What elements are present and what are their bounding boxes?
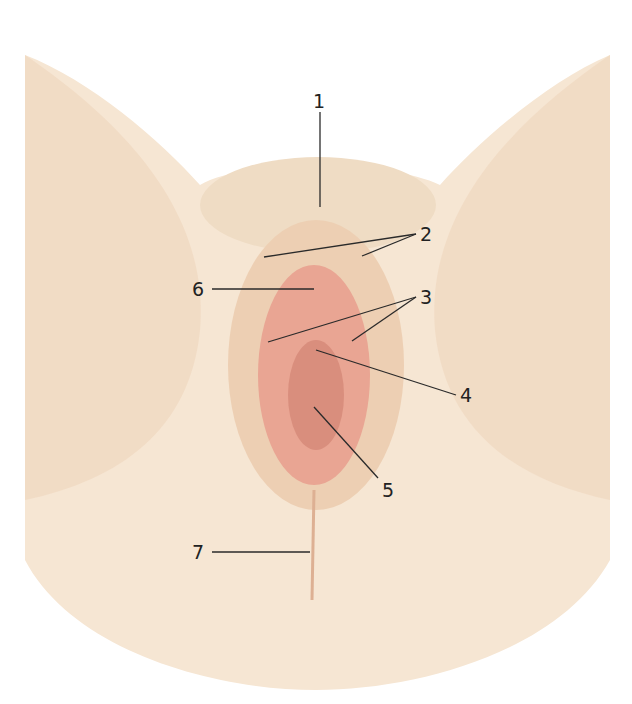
midline-seam	[312, 490, 314, 600]
label-7: 7	[192, 541, 204, 563]
label-3: 3	[420, 286, 432, 308]
label-6: 6	[192, 278, 204, 300]
label-4: 4	[460, 384, 472, 406]
illustration	[25, 55, 610, 690]
anatomy-figure: 1 2 3 4 5 6 7	[0, 0, 632, 704]
label-1: 1	[313, 90, 325, 112]
label-5: 5	[382, 479, 394, 501]
label-2: 2	[420, 223, 432, 245]
